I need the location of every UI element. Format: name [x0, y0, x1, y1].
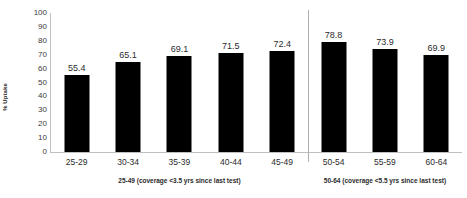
- y-axis-tick-label: 40: [20, 92, 47, 100]
- group-caption-1: 25-49 (coverage <3.5 yrs since last test…: [118, 177, 240, 184]
- bar-chart-figure: % Uptake 1009080706050403020100 55.465.1…: [0, 0, 467, 198]
- bar-group: 69.1: [154, 13, 205, 152]
- bar-value-label: 55.4: [68, 63, 86, 73]
- y-axis-tick-label: 80: [20, 37, 47, 45]
- bar[interactable]: [218, 53, 243, 152]
- bar[interactable]: [64, 75, 89, 152]
- x-axis-tick-label: 30-34: [117, 157, 139, 168]
- bar-value-label: 72.4: [273, 39, 291, 49]
- bar-group: 55.4: [51, 13, 102, 152]
- bar-group: 73.9: [359, 13, 410, 152]
- y-axis-tick-label: 30: [20, 106, 47, 114]
- y-axis-title: % Uptake: [2, 62, 8, 132]
- bar[interactable]: [424, 55, 449, 152]
- y-axis-tick-label: 10: [20, 134, 47, 142]
- bar-group: 65.1: [102, 13, 153, 152]
- y-axis-tick-label: 60: [20, 65, 47, 73]
- x-axis-tick-label: 60-64: [425, 157, 447, 168]
- x-axis-tick-label: 25-29: [66, 157, 88, 168]
- bar-group: 71.5: [205, 13, 256, 152]
- bar-group: 72.4: [257, 13, 308, 152]
- plot-area: 55.465.169.171.572.478.873.969.9: [51, 13, 462, 152]
- x-axis-tick-label: 50-54: [323, 157, 345, 168]
- y-axis-tick-label: 20: [20, 120, 47, 128]
- x-axis-tick-labels: 25-2930-3435-3940-4445-4950-5455-5960-64: [51, 157, 462, 171]
- bar-value-label: 73.9: [376, 37, 394, 47]
- group-divider-line: [308, 10, 309, 162]
- y-axis-ticks: 1009080706050403020100: [20, 10, 47, 156]
- bar-value-label: 69.9: [428, 43, 446, 53]
- x-axis-tick-label: 35-39: [169, 157, 191, 168]
- group-caption-2: 50-64 (coverage <5.5 yrs since last test…: [324, 177, 446, 184]
- bar-value-label: 71.5: [222, 41, 240, 51]
- bar-group: 69.9: [411, 13, 462, 152]
- y-axis-tick-label: 70: [20, 51, 47, 59]
- x-axis-tick-label: 40-44: [220, 157, 242, 168]
- bar[interactable]: [167, 56, 192, 152]
- y-axis-tick-label: 50: [20, 79, 47, 87]
- bar[interactable]: [270, 51, 295, 152]
- x-axis-tick-label: 45-49: [271, 157, 293, 168]
- y-axis-tick-label: 100: [20, 9, 47, 17]
- x-axis-line: [50, 152, 462, 153]
- y-axis-tick-label: 0: [20, 148, 47, 156]
- bar-value-label: 78.8: [325, 30, 343, 40]
- bar-group: 78.8: [308, 13, 359, 152]
- y-axis-tick-label: 90: [20, 23, 47, 31]
- bar[interactable]: [372, 49, 397, 152]
- bar[interactable]: [116, 62, 141, 152]
- bar-value-label: 69.1: [171, 44, 189, 54]
- bar[interactable]: [321, 42, 346, 152]
- x-axis-tick-label: 55-59: [374, 157, 396, 168]
- bar-value-label: 65.1: [119, 50, 137, 60]
